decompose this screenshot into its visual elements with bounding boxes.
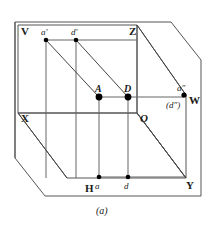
label-point-d: d	[124, 182, 129, 191]
label-point-a-double-prime: a″	[177, 84, 185, 93]
label-point-D: D	[124, 84, 131, 94]
dot-D	[125, 94, 132, 101]
dot-A	[96, 94, 103, 101]
label-point-d-double-prime: (d″)	[166, 101, 180, 110]
dot-a	[97, 175, 102, 180]
label-plane-V: V	[21, 26, 29, 37]
label-point-a: a	[95, 182, 100, 191]
label-axis-X: X	[21, 113, 29, 124]
projector-aprime-to-A	[46, 40, 99, 97]
label-axis-Y: Y	[186, 180, 194, 191]
dot-a-double	[181, 92, 186, 97]
figure-caption: (a)	[96, 206, 108, 216]
label-plane-W: W	[189, 95, 200, 106]
label-axis-Z: Z	[129, 26, 136, 37]
dot-d	[126, 175, 131, 180]
label-origin-O: O	[140, 113, 148, 124]
label-plane-H: H	[85, 183, 94, 194]
v-plane-rect	[18, 25, 137, 113]
projection-box-drawing	[0, 0, 213, 226]
label-point-d-prime: d′	[71, 28, 77, 37]
label-point-a-prime: a′	[41, 28, 47, 37]
figure-container: V Z X O W Y H a′ d′ A D a″ (d″) a d (a)	[0, 0, 213, 226]
projector-dprime-to-D	[76, 40, 128, 97]
dot-d-prime	[74, 38, 79, 43]
dot-a-prime	[44, 38, 49, 43]
label-point-A: A	[95, 84, 102, 94]
h-plane-quad	[18, 113, 186, 178]
